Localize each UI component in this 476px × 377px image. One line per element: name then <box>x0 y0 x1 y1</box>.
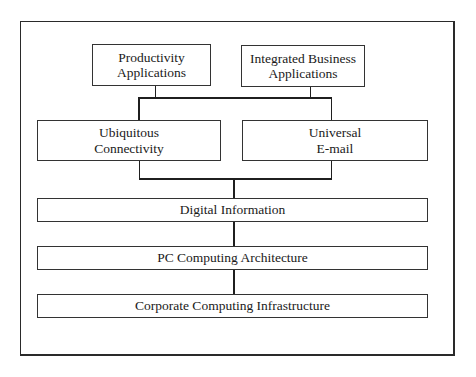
node-productivity-applications: Productivity Applications <box>92 44 211 86</box>
layer-label: PC Computing Architecture <box>157 250 308 266</box>
layer-digital-information: Digital Information <box>37 198 428 222</box>
node-label-line2: Applications <box>250 66 356 82</box>
node-label-line1: Productivity <box>117 50 186 66</box>
layer-label: Corporate Computing Infrastructure <box>135 298 330 314</box>
node-label-line1: Universal <box>309 125 361 141</box>
connector-to-email <box>331 97 332 120</box>
node-label-line1: Integrated Business <box>250 51 356 67</box>
node-label-line2: Connectivity <box>94 141 164 157</box>
layer-corporate-computing-infrastructure: Corporate Computing Infrastructure <box>37 294 428 318</box>
connector-upper-bus <box>138 97 332 99</box>
node-label-line2: E-mail <box>309 141 361 157</box>
layer-label: Digital Information <box>180 202 285 218</box>
node-label-line1: Ubiquitous <box>94 125 164 141</box>
connector-to-ubiquitous <box>138 97 140 120</box>
connector-digital-to-pc <box>233 222 235 246</box>
layer-pc-computing-architecture: PC Computing Architecture <box>37 246 428 270</box>
node-ubiquitous-connectivity: Ubiquitous Connectivity <box>37 120 221 161</box>
node-integrated-business-applications: Integrated Business Applications <box>241 45 365 87</box>
node-label-line2: Applications <box>117 65 186 81</box>
connector-pc-to-corporate <box>233 270 235 294</box>
connector-to-digital-information <box>233 178 235 198</box>
node-universal-email: Universal E-mail <box>242 120 428 161</box>
connector-lower-bus <box>139 178 332 180</box>
